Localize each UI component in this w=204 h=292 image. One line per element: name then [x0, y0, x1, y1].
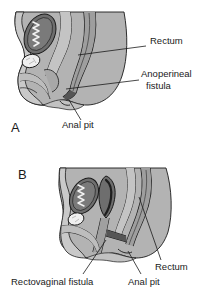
- anorectal-malformation-figure: A B Rectum Anoperineal fistula Anal pit …: [0, 0, 204, 292]
- panel-letter-b: B: [18, 168, 27, 181]
- panel-letter-a: A: [11, 121, 20, 134]
- label-anal-pit-b: Anal pit: [128, 277, 160, 287]
- label-anal-pit-a: Anal pit: [62, 120, 94, 130]
- panel-a-illustration: [15, 9, 146, 120]
- label-anoperineal-fistula-line1: Anoperineal: [141, 69, 192, 79]
- label-rectovaginal-fistula-b: Rectovaginal fistula: [11, 277, 93, 287]
- label-rectum-b: Rectum: [155, 262, 188, 272]
- panel-b-illustration: [59, 168, 171, 274]
- label-anoperineal-fistula-line2: fistula: [146, 81, 171, 91]
- label-rectum-a: Rectum: [150, 36, 183, 46]
